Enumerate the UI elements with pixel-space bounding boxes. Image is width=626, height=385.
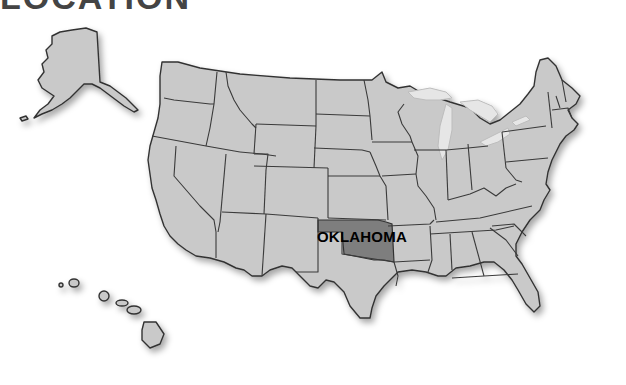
contiguous-us	[148, 58, 580, 318]
oklahoma-label: OKLAHOMA	[317, 228, 407, 245]
us-map	[0, 0, 626, 385]
alaska-inset	[20, 28, 138, 121]
hawaii-inset	[59, 279, 164, 348]
